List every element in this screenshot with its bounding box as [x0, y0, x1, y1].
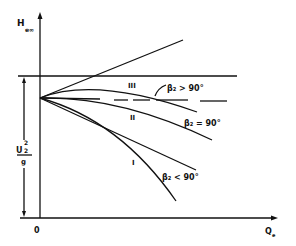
y-axis-arrow-icon [38, 12, 43, 19]
dimension-numerator: U [16, 146, 23, 155]
annotation-I: β₂ < 90° [162, 173, 199, 182]
origin-label: 0 [34, 226, 40, 235]
annotation-II: β₂ = 90° [184, 119, 221, 128]
x-axis-label-sub: e [272, 232, 276, 238]
y-axis-label-sub: e∞ [25, 26, 34, 33]
dimension-denominator: g [21, 158, 26, 166]
y-axis-label: H [17, 18, 25, 28]
dimension-arrow-top-icon [22, 77, 26, 83]
annotation-III: β₂ > 90° [167, 84, 204, 93]
x-axis-arrow-icon [271, 216, 278, 221]
rising-theoretical-line [40, 40, 183, 98]
annotation-leader-III [155, 85, 166, 96]
dimension-numerator-sub: 2 [24, 147, 28, 154]
curve-III-label: III [128, 82, 136, 90]
dimension-numerator-sup: 2 [24, 139, 28, 146]
dimension-arrow-bottom-icon [22, 211, 26, 217]
curve-II-label: II [130, 114, 135, 122]
falling-theoretical-line [40, 98, 196, 170]
curve-I [40, 98, 176, 201]
curve-I-label: I [132, 159, 135, 167]
pump-characteristic-diagram: H e∞ Q e 0 U 2 2 g III II I β₂ > 90° β₂ … [0, 0, 296, 246]
x-axis-label: Q [265, 227, 272, 236]
